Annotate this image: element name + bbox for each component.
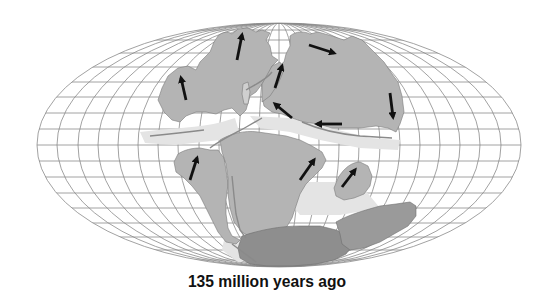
map-caption: 135 million years ago [21,272,512,292]
paleogeographic-map [0,0,534,280]
landmass-iberia [242,82,250,104]
landmass-eurasia [262,32,404,132]
